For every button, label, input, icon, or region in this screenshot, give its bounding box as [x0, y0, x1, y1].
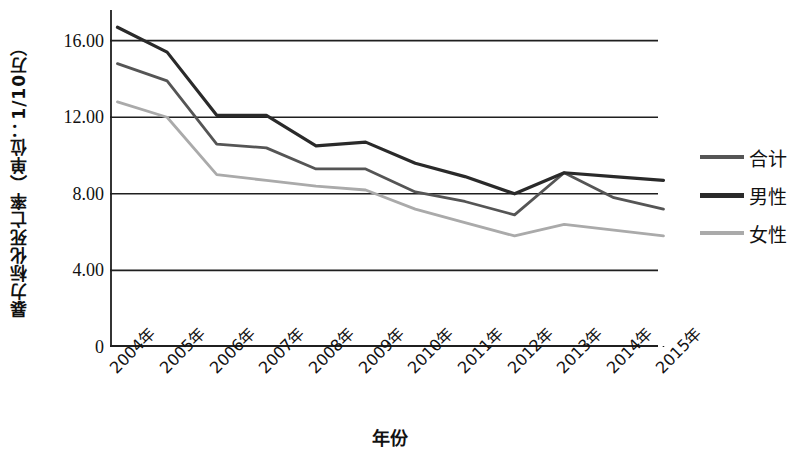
series-line-合计: [117, 64, 663, 215]
y-axis-tick-labels: 04.008.0012.0016.00: [36, 0, 104, 461]
chart-legend: 合计男性女性: [700, 138, 808, 252]
legend-label: 女性: [749, 220, 787, 247]
line-chart: 暴力标化死亡率（单位：1/10万） 04.008.0012.0016.00 20…: [0, 0, 810, 461]
legend-swatch: [700, 193, 744, 198]
legend-swatch: [700, 231, 744, 235]
series-line-男性: [117, 27, 663, 194]
x-axis-title: 年份: [110, 424, 670, 450]
legend-label: 合计: [749, 144, 787, 171]
legend-item-女性[interactable]: 女性: [700, 214, 808, 252]
y-tick-label: 8.00: [42, 185, 104, 203]
legend-item-男性[interactable]: 男性: [700, 176, 808, 214]
y-tick-label: 16.00: [42, 32, 104, 50]
plot-svg: [110, 10, 670, 347]
y-tick-label: 4.00: [42, 261, 104, 279]
y-tick-label: 12.00: [42, 108, 104, 126]
legend-item-合计[interactable]: 合计: [700, 138, 808, 176]
legend-swatch: [700, 155, 744, 159]
data-series-group: [117, 27, 663, 236]
x-axis-tick-labels: 2004年2005年2006年2007年2008年2009年2010年2011年…: [110, 347, 670, 422]
plot-area: [110, 10, 670, 347]
y-tick-label: 0: [42, 338, 104, 356]
y-axis-title: 暴力标化死亡率（单位：1/10万）: [0, 0, 36, 355]
y-axis-title-text: 暴力标化死亡率（单位：1/10万）: [6, 38, 31, 318]
legend-label: 男性: [749, 182, 787, 209]
